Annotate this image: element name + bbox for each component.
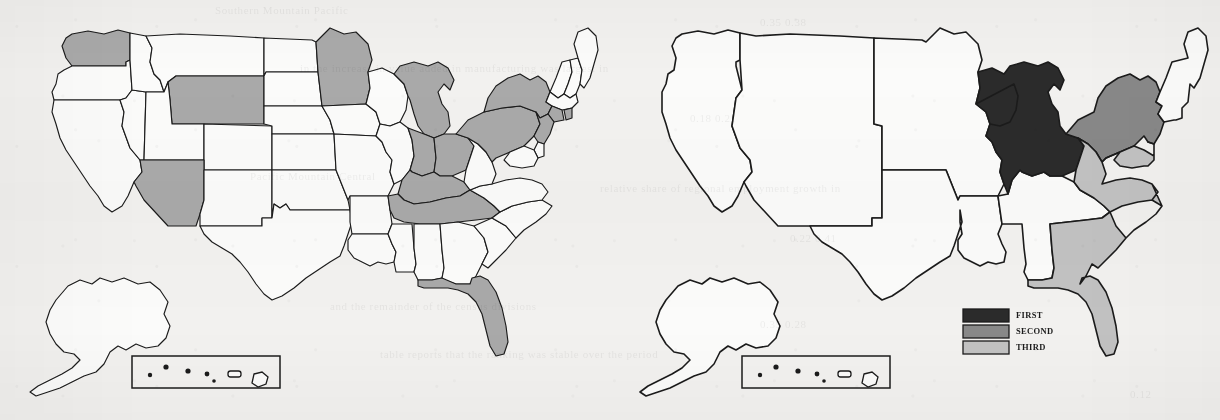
legend-entry-second: SECOND [963, 325, 1054, 338]
legend-swatch-first [963, 309, 1009, 322]
right-map-panel: FIRST SECOND THIRD [610, 0, 1220, 420]
state-oregon [52, 60, 132, 100]
legend-swatch-second [963, 325, 1009, 338]
legend-label-second: SECOND [1016, 326, 1054, 336]
inset-hawaii-isle-6-right [838, 371, 851, 377]
inset-hawaii-isle-5-left [212, 379, 216, 383]
legend-entry-first: FIRST [963, 309, 1043, 322]
state-washington [62, 30, 130, 66]
left-map-svg [0, 0, 610, 420]
state-arkansas [350, 196, 392, 234]
inset-hawaii-isle-6-left [228, 371, 241, 377]
inset-hawaii-isle-5-right [822, 379, 826, 383]
state-florida [418, 276, 508, 356]
inset-alaska-right [640, 278, 780, 396]
state-louisiana [348, 234, 396, 266]
state-rhode-island [564, 108, 572, 120]
legend-label-first: FIRST [1016, 310, 1043, 320]
state-arizona [134, 160, 204, 226]
state-alabama [414, 224, 444, 280]
legend-entry-third: THIRD [963, 341, 1046, 354]
state-south-dakota [264, 72, 322, 106]
state-minnesota [316, 28, 372, 106]
inset-hawaii-isle-3-right [795, 368, 800, 373]
inset-hawaii-isle-3-left [185, 368, 190, 373]
state-wyoming [168, 76, 264, 124]
state-new-mexico [200, 170, 272, 226]
state-nebraska [264, 106, 334, 134]
state-north-dakota [264, 38, 318, 76]
inset-hawaii-isle-2-right [773, 364, 778, 369]
inset-hawaii-isle-1-right [758, 373, 762, 377]
inset-hawaii-isle-4-left [205, 372, 210, 377]
legend-swatch-third [963, 341, 1009, 354]
right-map-svg: FIRST SECOND THIRD [610, 0, 1220, 420]
legend-label-third: THIRD [1016, 342, 1046, 352]
left-map-panel [0, 0, 610, 420]
state-colorado [204, 124, 272, 170]
inset-hawaii-isle-7-left [252, 372, 268, 387]
division-mountain [732, 33, 882, 226]
map-legend: FIRST SECOND THIRD [963, 309, 1054, 354]
inset-hawaii-isle-4-right [815, 372, 820, 377]
inset-hawaii-isle-7-right [862, 372, 878, 387]
inset-hawaii-isle-1-left [148, 373, 152, 377]
division-new-england [1156, 28, 1208, 122]
state-kansas [272, 134, 336, 170]
inset-alaska-left [30, 278, 170, 396]
inset-hawaii-isle-2-left [163, 364, 168, 369]
